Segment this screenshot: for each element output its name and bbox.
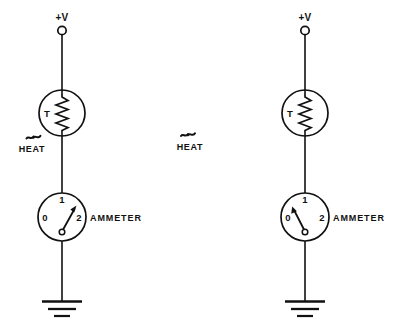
ammeter-name-right: AMMETER [333, 213, 385, 223]
ammeter-needle-right [294, 210, 305, 232]
circuit-right-unheated: +V T 1 0 2 [281, 12, 385, 316]
supply-terminal-left: +V [56, 12, 69, 35]
supply-label-left: +V [56, 12, 69, 23]
ammeter-right: 1 0 2 [281, 193, 329, 241]
ammeter-scale-0-right: 0 [285, 212, 290, 223]
heat-squiggle-icon-left-b [34, 136, 41, 138]
circuit-left-heated: +V T HEAT [19, 12, 142, 316]
ammeter-pivot-left [59, 229, 65, 235]
heat-squiggle-icon-left-a [27, 137, 34, 139]
thermistor-zigzag-right [299, 94, 311, 132]
thermistor-zigzag-left [56, 94, 68, 132]
heat-annotation-left: HEAT [19, 136, 46, 154]
heat-label-left: HEAT [19, 144, 46, 154]
supply-label-right: +V [299, 12, 312, 23]
ammeter-pivot-right [302, 229, 308, 235]
heat-annotation-center: HEAT [177, 133, 204, 152]
ground-symbol-right [285, 302, 325, 317]
circuit-diagram-canvas: +V T HEAT [0, 0, 401, 334]
ammeter-scale-2-left: 2 [76, 212, 81, 223]
thermistor-label-left: T [44, 108, 50, 119]
heat-squiggle-icon-center-b [188, 133, 195, 135]
ground-symbol-left [42, 302, 82, 317]
supply-terminal-circle-right [301, 26, 309, 34]
thermistor-label-right: T [287, 108, 293, 119]
ammeter-scale-2-right: 2 [319, 212, 324, 223]
ammeter-scale-0-left: 0 [42, 212, 47, 223]
ammeter-needle-left [62, 209, 75, 232]
heat-squiggle-icon-center-a [181, 134, 188, 136]
thermistor-left: T [39, 90, 85, 136]
ammeter-scale-1-left: 1 [59, 194, 65, 205]
supply-terminal-right: +V [299, 12, 312, 35]
circuit-diagram: +V T HEAT [0, 0, 401, 334]
ammeter-scale-1-right: 1 [302, 194, 308, 205]
supply-terminal-circle-left [58, 26, 66, 34]
ammeter-name-left: AMMETER [90, 213, 142, 223]
ammeter-left: 1 0 2 [38, 193, 86, 241]
thermistor-right: T [282, 90, 328, 136]
heat-label-center: HEAT [177, 142, 204, 152]
